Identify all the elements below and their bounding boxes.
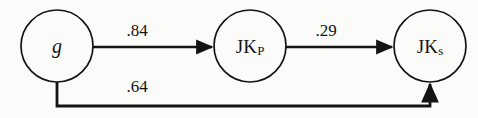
path-diagram-graphics: [0, 0, 478, 118]
node-circle-jkp: [214, 10, 286, 82]
path-diagram-canvas: g JKP JKs .84 .29 .64: [0, 0, 478, 118]
node-circle-g: [21, 10, 93, 82]
arrow-g-to-jks: [57, 82, 430, 106]
node-circle-jks: [394, 10, 466, 82]
